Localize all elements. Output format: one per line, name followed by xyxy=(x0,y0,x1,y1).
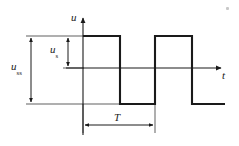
time-axis-label: t xyxy=(222,70,225,81)
amplitude-label-sub: s xyxy=(56,52,59,59)
amplitude-label: us xyxy=(50,44,58,55)
waveform-drawing xyxy=(0,0,239,146)
voltage-axis-label: u xyxy=(71,12,77,23)
amplitude-label-main: u xyxy=(50,43,56,55)
square-wave-trace xyxy=(83,36,225,104)
reference-lines xyxy=(26,36,155,133)
image-speck-artifact xyxy=(226,7,229,10)
peak-to-peak-label-sub: ss xyxy=(17,69,23,76)
period-label: T xyxy=(114,112,120,123)
peak-to-peak-label: uss xyxy=(11,61,22,72)
waveform-figure: u t uss us T xyxy=(0,0,239,146)
peak-to-peak-label-main: u xyxy=(11,60,17,72)
